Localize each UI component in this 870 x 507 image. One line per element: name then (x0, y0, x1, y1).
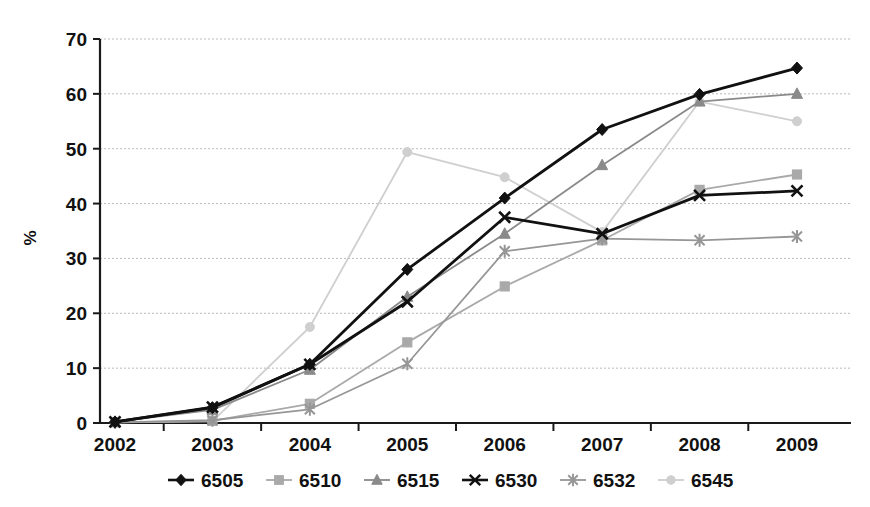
data-point-marker-asterisk (402, 357, 412, 370)
data-point-marker-square (793, 170, 802, 179)
legend-label-6505: 6505 (201, 470, 244, 491)
legend-item-6505[interactable]: 6505 (168, 470, 244, 491)
legend-item-6515[interactable]: 6515 (364, 470, 440, 491)
y-tick-label: 60 (66, 84, 87, 105)
x-axis: 20022003200420052006200720082009 (94, 423, 851, 455)
data-point-marker-diamond (792, 62, 803, 74)
plot-series (110, 62, 803, 429)
data-point-marker-diamond (176, 474, 186, 485)
series-6545 (111, 97, 802, 427)
data-point-marker-circle (793, 117, 802, 126)
legend-item-6530[interactable]: 6530 (462, 470, 537, 491)
y-tick-label: 40 (66, 194, 87, 215)
y-tick-label: 70 (66, 29, 87, 50)
data-point-marker-circle (305, 323, 314, 332)
x-tick-label: 2008 (678, 434, 720, 455)
x-tick-label: 2006 (484, 434, 526, 455)
series-6505 (110, 62, 803, 428)
x-tick-label: 2005 (386, 434, 429, 455)
data-point-marker-triangle (792, 88, 803, 99)
y-tick-label: 10 (66, 358, 87, 379)
data-point-marker-square (275, 476, 284, 485)
data-point-marker-square (500, 282, 509, 291)
legend-label-6545: 6545 (691, 470, 734, 491)
y-tick-label: 0 (76, 413, 87, 434)
legend-label-6510: 6510 (299, 470, 341, 491)
data-point-marker-circle (667, 476, 676, 485)
data-point-marker-square (403, 338, 412, 347)
y-axis: 010203040506070 (66, 29, 100, 434)
series-line-6545 (115, 102, 797, 423)
x-tick-label: 2009 (776, 434, 818, 455)
legend-item-6510[interactable]: 6510 (266, 470, 341, 491)
y-tick-label: 50 (66, 139, 87, 160)
data-point-marker-circle (500, 173, 509, 182)
y-axis-label: % (21, 230, 40, 245)
line-chart: 010203040506070 200220032004200520062007… (0, 0, 870, 507)
series-6510 (111, 170, 802, 427)
chart-legend: 650565106515653065326545 (168, 470, 734, 491)
data-point-marker-triangle (597, 159, 608, 170)
y-axis-title: % (21, 230, 40, 245)
legend-label-6530: 6530 (495, 470, 537, 491)
chart-canvas: 010203040506070 200220032004200520062007… (0, 0, 870, 507)
data-point-marker-circle (403, 148, 412, 157)
legend-item-6532[interactable]: 6532 (560, 470, 635, 491)
series-6515 (110, 88, 803, 427)
grid-lines (100, 39, 851, 368)
legend-label-6515: 6515 (397, 470, 440, 491)
x-tick-label: 2003 (191, 434, 233, 455)
legend-item-6545[interactable]: 6545 (658, 470, 734, 491)
series-line-6510 (115, 174, 797, 422)
y-tick-label: 30 (66, 248, 87, 269)
legend-label-6532: 6532 (593, 470, 635, 491)
x-tick-label: 2002 (94, 434, 136, 455)
y-tick-label: 20 (66, 303, 87, 324)
x-tick-label: 2007 (581, 434, 623, 455)
data-point-marker-triangle (499, 228, 510, 239)
x-tick-label: 2004 (289, 434, 332, 455)
